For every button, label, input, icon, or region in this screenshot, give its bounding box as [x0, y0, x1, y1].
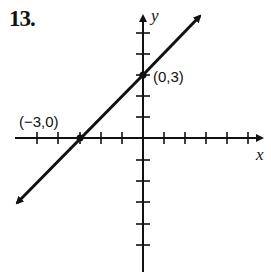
point-a-dot [77, 135, 84, 142]
point-b-label: (0,3) [153, 68, 184, 85]
point-b-dot [140, 72, 147, 79]
graphed-line [17, 16, 200, 203]
y-axis-label: y [149, 6, 159, 25]
x-axis-label: x [255, 145, 264, 164]
coordinate-graph: x y (−3,0) (0,3) [0, 0, 271, 280]
point-a-label: (−3,0) [19, 113, 59, 130]
